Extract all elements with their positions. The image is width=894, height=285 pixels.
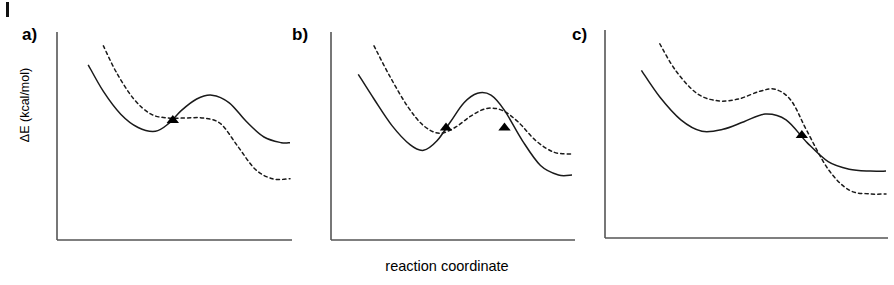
panel-c: [605, 30, 888, 238]
panel-c-dashed-curve: [660, 44, 886, 194]
x-axis-label: reaction coordinate: [0, 258, 894, 274]
y-axis-label: ΔE (kcal/mol): [18, 50, 32, 160]
panel-b: [331, 32, 575, 240]
panel-b-crossing-markers: [440, 123, 511, 131]
panel-a-dashed-curve: [103, 46, 290, 180]
figure-canvas: a) b) c) ΔE (kcal/mol) reaction coordina…: [0, 0, 894, 285]
panel-label-c: c): [572, 25, 587, 45]
panel-label-a: a): [22, 25, 37, 45]
panel-a: [57, 32, 292, 240]
panel-b-dashed-curve: [374, 46, 572, 154]
crossing-point-1: [440, 123, 452, 131]
panel-label-b: b): [292, 25, 308, 45]
plots-svg: [0, 0, 894, 285]
panel-c-solid-curve: [641, 70, 886, 171]
panel-b-solid-curve: [358, 74, 572, 175]
crop-artifact-mark: [6, 2, 9, 17]
crossing-point-2: [498, 123, 510, 131]
